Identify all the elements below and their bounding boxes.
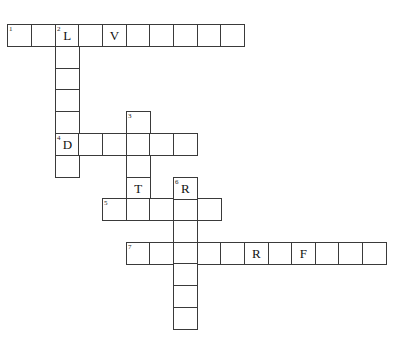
- crossword-cell[interactable]: 4D: [55, 133, 80, 156]
- crossword-cell[interactable]: [149, 24, 174, 47]
- clue-number: 7: [128, 243, 132, 251]
- crossword-cell[interactable]: 5: [102, 198, 127, 221]
- crossword-cell[interactable]: T: [126, 177, 151, 200]
- crossword-cell[interactable]: [197, 198, 222, 221]
- cell-letter: R: [174, 181, 197, 197]
- crossword-cell[interactable]: [173, 24, 198, 47]
- crossword-cell[interactable]: V: [102, 24, 127, 47]
- crossword-cell[interactable]: R: [244, 242, 269, 265]
- cell-letter: V: [103, 28, 126, 44]
- crossword-cell[interactable]: [173, 242, 198, 265]
- crossword-cell[interactable]: 2L: [55, 24, 80, 47]
- crossword-cell[interactable]: [173, 307, 198, 330]
- crossword-cell[interactable]: [126, 155, 151, 178]
- crossword-cell[interactable]: [220, 24, 245, 47]
- crossword-cell[interactable]: F: [291, 242, 316, 265]
- crossword-cell[interactable]: [173, 220, 198, 243]
- crossword-cell[interactable]: 7: [126, 242, 151, 265]
- crossword-cell[interactable]: [55, 68, 80, 91]
- crossword-cell[interactable]: [173, 263, 198, 286]
- crossword-cell[interactable]: [102, 133, 127, 156]
- crossword-cell[interactable]: 3: [126, 111, 151, 134]
- crossword-cell[interactable]: [197, 242, 222, 265]
- crossword-cell[interactable]: [126, 24, 151, 47]
- crossword-cell[interactable]: [126, 198, 151, 221]
- crossword-cell[interactable]: [149, 133, 174, 156]
- crossword-cell[interactable]: [55, 155, 80, 178]
- crossword-cell[interactable]: [55, 111, 80, 134]
- crossword-cell[interactable]: [315, 242, 340, 265]
- clue-number: 3: [128, 112, 132, 120]
- crossword-cell[interactable]: [55, 89, 80, 112]
- cell-letter: D: [56, 137, 79, 153]
- crossword-cell[interactable]: [126, 133, 151, 156]
- crossword-cell[interactable]: [31, 24, 56, 47]
- crossword-cell[interactable]: [173, 133, 198, 156]
- crossword-cell[interactable]: [268, 242, 293, 265]
- crossword-cell[interactable]: 1: [7, 24, 32, 47]
- crossword-cell[interactable]: [338, 242, 363, 265]
- crossword-cell[interactable]: [173, 285, 198, 308]
- clue-number: 5: [104, 199, 108, 207]
- crossword-grid: 12LV4D3T56R7RF: [0, 0, 414, 348]
- crossword-cell[interactable]: [149, 198, 174, 221]
- cell-letter: F: [292, 246, 315, 262]
- crossword-cell[interactable]: [55, 46, 80, 69]
- crossword-cell[interactable]: [78, 133, 103, 156]
- crossword-cell[interactable]: [149, 242, 174, 265]
- cell-letter: T: [127, 181, 150, 197]
- cell-letter: R: [245, 246, 268, 262]
- clue-number: 1: [9, 25, 13, 33]
- crossword-cell[interactable]: 6R: [173, 177, 198, 200]
- crossword-cell[interactable]: [220, 242, 245, 265]
- cell-letter: L: [56, 28, 79, 44]
- crossword-cell[interactable]: [197, 24, 222, 47]
- crossword-cell[interactable]: [173, 198, 198, 221]
- crossword-cell[interactable]: [78, 24, 103, 47]
- crossword-cell[interactable]: [362, 242, 387, 265]
